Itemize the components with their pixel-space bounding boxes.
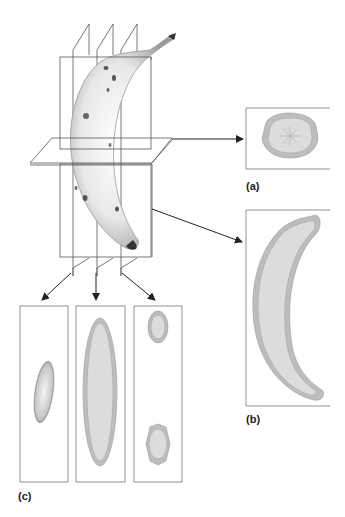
label-b: (b): [246, 413, 260, 425]
banana-sectioning-diagram: [0, 0, 345, 517]
label-a: (a): [246, 180, 259, 192]
arrows-to-c: [42, 273, 155, 300]
diagram-canvas: [0, 0, 345, 517]
panel-b-longitudinal-section: [246, 210, 330, 406]
arrow-to-b: [152, 209, 242, 242]
panel-c-serial-sections: [20, 306, 182, 482]
label-c: (c): [18, 490, 31, 502]
panel-a-transverse-section: [246, 108, 330, 169]
banana-illustration: [70, 33, 176, 250]
